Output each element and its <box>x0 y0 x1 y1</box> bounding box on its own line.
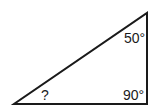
angle-label-top: 50° <box>124 30 145 46</box>
angle-label-unknown: ? <box>41 87 49 103</box>
angle-label-right-angle: 90° <box>123 87 144 103</box>
triangle-diagram: 50° 90° ? <box>0 0 159 107</box>
